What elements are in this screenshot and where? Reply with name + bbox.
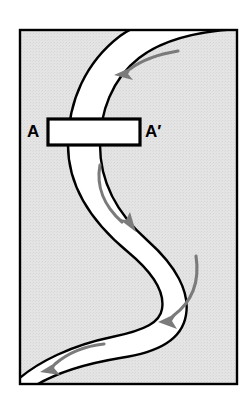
cross-section-box[interactable] (48, 119, 140, 145)
cross-section-label-a: A (27, 123, 39, 140)
river-map-svg (0, 0, 251, 400)
river-meander-figure: A A′ (0, 0, 251, 400)
map-background (20, 30, 237, 384)
cross-section-label-a-prime: A′ (145, 123, 161, 140)
